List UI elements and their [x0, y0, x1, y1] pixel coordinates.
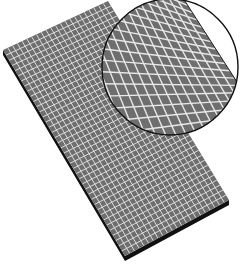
- mesh-illustration: [0, 0, 241, 265]
